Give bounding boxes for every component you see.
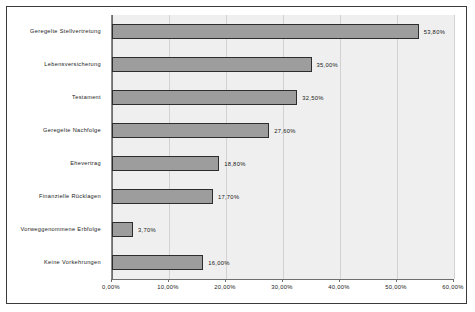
bar	[112, 57, 312, 72]
bar	[112, 24, 419, 39]
bar-row: 18,80%	[112, 147, 454, 180]
x-axis-tickmark	[168, 279, 169, 282]
plot-area: 53,80% 35,00% 32,50% 27,60% 18,80% 17,70…	[111, 15, 454, 279]
chart-frame: Geregelte Stellvertretung Lebensversiche…	[6, 6, 467, 304]
bar-value-label: 35,00%	[317, 62, 338, 68]
x-axis-tickmark	[225, 279, 226, 282]
bar-row: 17,70%	[112, 180, 454, 213]
bar-row: 53,80%	[112, 15, 454, 48]
category-label: Keine Vorkehrungen	[44, 259, 101, 265]
gridline	[454, 15, 455, 279]
bar	[112, 123, 269, 138]
bar	[112, 156, 219, 171]
category-tick: Finanzielle Rücklagen	[7, 180, 106, 213]
bar	[112, 90, 297, 105]
bar-row: 35,00%	[112, 48, 454, 81]
x-axis-tick-label: 40,00%	[328, 284, 349, 290]
category-tick: Lebensversicherung	[7, 48, 106, 81]
bar-row: 16,00%	[112, 246, 454, 279]
bar-row: 32,50%	[112, 81, 454, 114]
x-axis-tick-label: 50,00%	[385, 284, 406, 290]
bar-value-label: 18,80%	[224, 161, 245, 167]
category-label: Lebensversicherung	[44, 61, 101, 67]
x-axis-tickmark	[453, 279, 454, 282]
category-label: Testament	[72, 94, 101, 100]
bar-value-label: 3,70%	[138, 227, 156, 233]
category-label: Geregelte Stellvertretung	[30, 28, 101, 34]
x-axis-labels: 0,00%10,00%20,00%30,00%40,00%50,00%60,00…	[111, 284, 454, 296]
x-axis-tick-label: 30,00%	[271, 284, 292, 290]
x-axis-tick-label: 60,00%	[442, 284, 463, 290]
category-tick: Testament	[7, 81, 106, 114]
x-axis-tickmarks	[111, 279, 454, 283]
category-label: Finanzielle Rücklagen	[39, 193, 101, 199]
x-axis-tickmark	[396, 279, 397, 282]
category-label: Geregelte Nachfolge	[43, 127, 101, 133]
bar-row: 3,70%	[112, 213, 454, 246]
category-tick: Geregelte Nachfolge	[7, 114, 106, 147]
category-label: Vorweggenommene Erbfolge	[20, 226, 101, 232]
bar	[112, 255, 203, 270]
bar-series: 53,80% 35,00% 32,50% 27,60% 18,80% 17,70…	[112, 15, 454, 279]
bar-row: 27,60%	[112, 114, 454, 147]
x-axis-tick-label: 10,00%	[157, 284, 178, 290]
bar-value-label: 17,70%	[218, 194, 239, 200]
category-axis: Geregelte Stellvertretung Lebensversiche…	[7, 15, 106, 279]
bar-value-label: 53,80%	[424, 29, 445, 35]
category-tick: Vorweggenommene Erbfolge	[7, 213, 106, 246]
bar-value-label: 32,50%	[302, 95, 323, 101]
x-axis-tickmark	[339, 279, 340, 282]
x-axis-tickmark	[111, 279, 112, 282]
bar-value-label: 16,00%	[208, 260, 229, 266]
x-axis-tick-label: 20,00%	[214, 284, 235, 290]
bar-value-label: 27,60%	[274, 128, 295, 134]
category-tick: Geregelte Stellvertretung	[7, 15, 106, 48]
x-axis-tickmark	[282, 279, 283, 282]
category-label: Ehevertrag	[70, 160, 101, 166]
x-axis-tick-label: 0,00%	[102, 284, 120, 290]
bar	[112, 189, 213, 204]
bar	[112, 222, 133, 237]
category-tick: Ehevertrag	[7, 147, 106, 180]
category-tick: Keine Vorkehrungen	[7, 246, 106, 279]
